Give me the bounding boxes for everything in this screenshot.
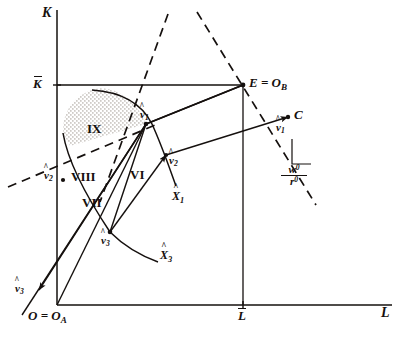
node-v1-center: [144, 122, 149, 127]
k-axis-label: K: [42, 6, 51, 20]
node-C: [286, 115, 290, 119]
region-viii-label: VIII: [71, 170, 96, 183]
slope-ratio-label: w0 r0: [281, 164, 307, 187]
slope-denominator: r0: [281, 175, 307, 187]
vector-v2-center-label: v2: [169, 155, 178, 166]
node-v3-center: [108, 230, 113, 235]
k-bar-label: K: [33, 77, 42, 90]
figure-canvas: K L K L O = OA E = OB C v1 v1 v2 v2 v3 v…: [0, 0, 398, 348]
vector-v1-center-label: v1: [140, 109, 149, 120]
region-ix-label: IX: [87, 122, 101, 135]
isoquant-x3-label: X3: [160, 249, 172, 261]
origin-label: O = OA: [28, 309, 67, 322]
region-vi-label: VI: [130, 168, 144, 181]
node-E: [241, 83, 246, 88]
vector-v3-center-label: v3: [101, 235, 110, 246]
ray-v2-C: [166, 117, 288, 155]
point-c-label: C: [294, 108, 303, 121]
axis-lines: [57, 10, 392, 305]
dashed-lines: [8, 12, 316, 205]
ray-lowerleft-v1: [22, 124, 146, 315]
region-vii-label: VII: [82, 196, 102, 209]
slope-triangle-legs: [292, 139, 311, 164]
vector-v2-left-label: v2: [44, 170, 53, 181]
vector-v3-arrow-label: v3: [15, 283, 24, 294]
node-v2-left: [61, 178, 65, 182]
point-e-label: E = OB: [249, 76, 287, 89]
isoquant-x3-lower: [110, 232, 158, 262]
vector-v1-right-label: v1: [276, 122, 285, 133]
node-v2-center: [164, 153, 168, 157]
isoquant-x1-label: X1: [172, 190, 184, 202]
region-ix-shading: [63, 88, 146, 146]
l-axis-label: L: [381, 306, 390, 320]
factor-rays: [22, 85, 288, 315]
ray-oa-v1: [57, 124, 146, 305]
slope-indicator-triangle: [292, 139, 311, 164]
diagram-vector-layer: [0, 0, 398, 348]
l-bar-label: L: [238, 309, 246, 322]
slope-numerator: w0: [281, 164, 307, 175]
ray-E-v1b: [146, 85, 243, 124]
